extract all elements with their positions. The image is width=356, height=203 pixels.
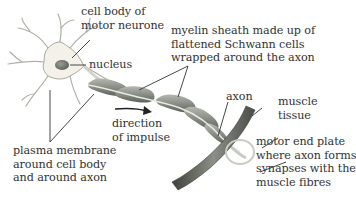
nucleus xyxy=(55,60,69,70)
label-cell-body: cell body of motor neurone xyxy=(81,5,164,32)
label-muscle-tissue: muscle tissue xyxy=(278,95,317,122)
label-nucleus: nucleus xyxy=(89,58,132,72)
label-motor-end-plate: motor end plate where axon forms synapse… xyxy=(256,135,356,189)
label-plasma-membrane: plasma membrane around cell body and aro… xyxy=(13,144,116,185)
direction-arrow-icon xyxy=(115,106,152,115)
label-myelin-sheath: myelin sheath made up of flattened Schwa… xyxy=(171,24,315,65)
label-direction: direction of impulse xyxy=(112,117,170,144)
label-axon: axon xyxy=(226,90,253,104)
